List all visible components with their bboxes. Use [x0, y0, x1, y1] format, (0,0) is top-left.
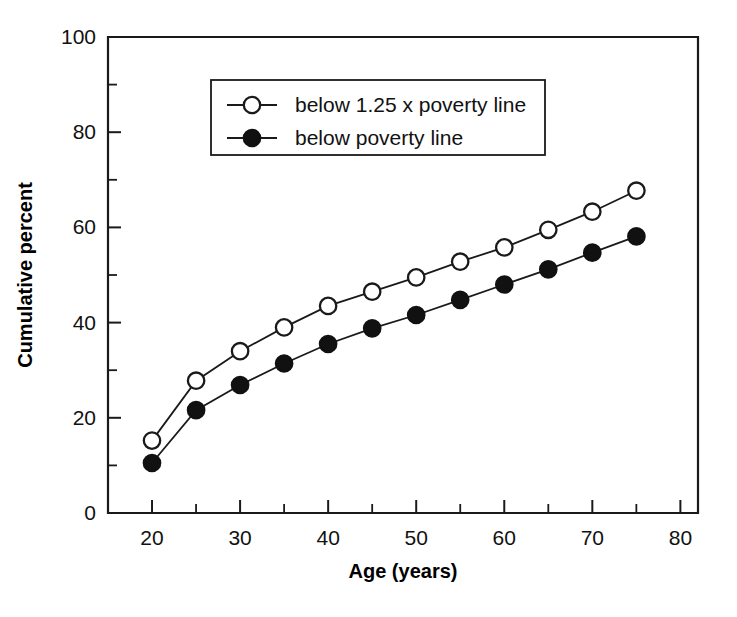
data-point-open	[232, 343, 248, 359]
y-axis-ticks	[108, 37, 121, 513]
x-tick-label: 30	[228, 526, 251, 549]
legend-marker-open	[244, 97, 260, 113]
x-tick-label: 70	[581, 526, 604, 549]
data-point-open	[188, 373, 204, 389]
data-point-filled	[320, 336, 336, 352]
x-tick-label: 40	[316, 526, 339, 549]
x-axis-ticks	[152, 500, 680, 513]
y-tick-label: 100	[61, 25, 96, 48]
data-point-filled	[276, 355, 292, 371]
series-1	[144, 183, 645, 449]
x-tick-label: 60	[493, 526, 516, 549]
data-point-filled	[584, 244, 600, 260]
x-tick-label: 20	[140, 526, 163, 549]
x-tick-label: 50	[405, 526, 428, 549]
series-2	[144, 228, 645, 471]
data-point-filled	[188, 402, 204, 418]
data-point-open	[364, 284, 380, 300]
data-point-open	[276, 319, 292, 335]
figure-container: 020406080100 20304050607080 Age (years) …	[0, 0, 737, 617]
data-point-filled	[628, 228, 644, 244]
y-axis-tick-labels: 020406080100	[61, 25, 96, 524]
y-tick-label: 60	[73, 215, 96, 238]
x-tick-label: 80	[669, 526, 692, 549]
data-point-filled	[452, 292, 468, 308]
x-axis-title: Age (years)	[349, 560, 458, 582]
data-series-layer	[144, 183, 645, 472]
data-point-open	[408, 269, 424, 285]
series-line	[152, 191, 636, 441]
data-point-open	[628, 183, 644, 199]
data-point-filled	[364, 320, 380, 336]
y-axis-title: Cumulative percent	[14, 182, 36, 368]
series-line	[152, 236, 636, 463]
data-point-open	[452, 254, 468, 270]
legend-label: below 1.25 x poverty line	[295, 93, 526, 116]
y-tick-label: 20	[73, 406, 96, 429]
data-point-filled	[540, 261, 556, 277]
data-point-open	[496, 239, 512, 255]
line-chart: 020406080100 20304050607080 Age (years) …	[0, 0, 737, 617]
data-point-open	[144, 432, 160, 448]
data-point-filled	[232, 377, 248, 393]
data-point-open	[540, 222, 556, 238]
legend-marker-filled	[244, 130, 260, 146]
data-point-filled	[408, 307, 424, 323]
data-point-open	[320, 298, 336, 314]
data-point-filled	[496, 276, 512, 292]
legend-label: below poverty line	[295, 126, 463, 149]
x-axis-tick-labels: 20304050607080	[140, 526, 692, 549]
y-tick-label: 0	[84, 501, 96, 524]
chart-legend: below 1.25 x poverty linebelow poverty l…	[211, 80, 545, 155]
y-tick-label: 80	[73, 120, 96, 143]
data-point-open	[584, 204, 600, 220]
y-tick-label: 40	[73, 311, 96, 334]
data-point-filled	[144, 455, 160, 471]
